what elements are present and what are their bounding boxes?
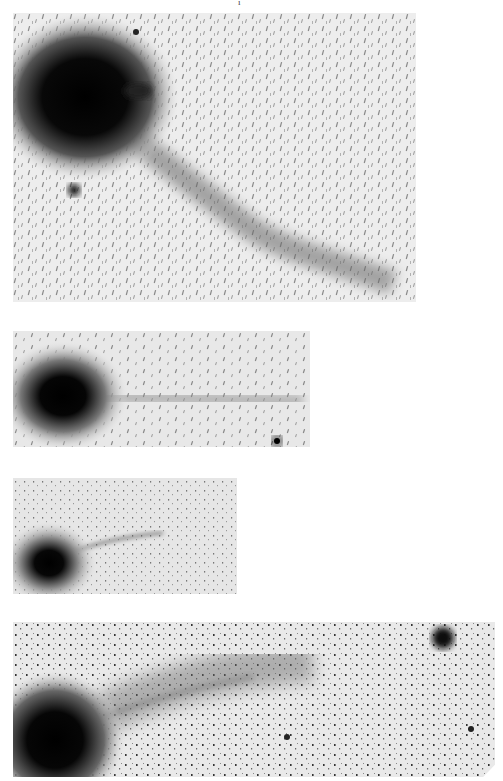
star	[468, 726, 474, 732]
comet-image-panel-2	[13, 331, 310, 447]
star	[284, 734, 290, 740]
comet-image-panel-1	[13, 13, 416, 302]
comet-image-panel-3	[13, 478, 237, 594]
comet-image	[13, 331, 310, 447]
star	[432, 627, 454, 649]
comet-image	[13, 622, 495, 777]
star	[68, 184, 80, 196]
page-number-fragment: i	[238, 0, 241, 7]
star	[133, 29, 139, 35]
comet-image	[13, 478, 237, 594]
comet-image	[13, 13, 416, 302]
comet-image-panel-4	[13, 622, 495, 777]
